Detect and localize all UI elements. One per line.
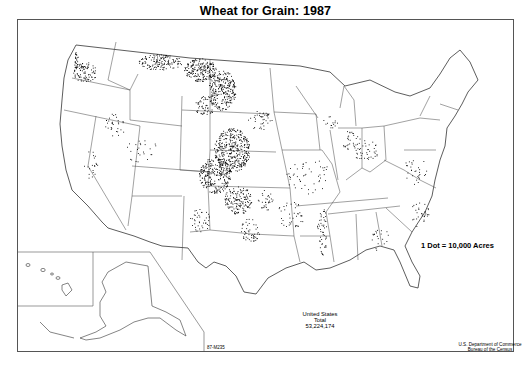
alaska-inset [40, 262, 186, 340]
us-outline [60, 45, 478, 294]
us-total: United States Total 53,224,174 [290, 311, 350, 330]
us-dot-map [0, 0, 531, 369]
hawaii-inset [26, 264, 72, 297]
map-code: 87-M235 [207, 345, 225, 350]
credit-line2: Bureau of the Census [455, 347, 525, 352]
legend-dot-value: 1 Dot = 10,000 Acres [421, 241, 494, 250]
inset-frames [17, 252, 204, 352]
source-credit: U.S. Department of Commerce Bureau of th… [455, 342, 525, 352]
total-value: 53,224,174 [290, 323, 350, 329]
state-boundaries [64, 42, 458, 262]
